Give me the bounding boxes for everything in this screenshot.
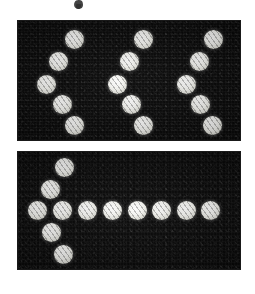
- pattern-dot: [203, 116, 222, 135]
- pattern-dot: [177, 201, 196, 220]
- pattern-dot: [128, 201, 147, 220]
- pattern-dot: [78, 201, 97, 220]
- figure-root: [0, 0, 255, 294]
- panel-bottom: [18, 152, 240, 269]
- pattern-dot: [191, 95, 210, 114]
- pattern-dot: [201, 201, 220, 220]
- panel-top: [18, 21, 240, 140]
- pattern-dot: [53, 201, 72, 220]
- pattern-dot: [103, 201, 122, 220]
- arrow-shaft: [18, 152, 240, 269]
- zigzag-group-3: [18, 21, 240, 140]
- pattern-dot: [177, 75, 196, 94]
- pattern-dot: [152, 201, 171, 220]
- pattern-dot: [204, 30, 223, 49]
- pattern-dot: [190, 52, 209, 71]
